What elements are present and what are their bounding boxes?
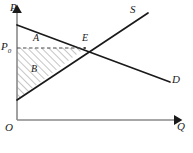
x-axis-label: Q [177, 121, 185, 132]
equilibrium-point-label: E [82, 33, 88, 43]
price-tick-letter: P [1, 40, 8, 52]
figure-caption [0, 148, 193, 153]
equilibrium-point-marker [84, 47, 86, 49]
region-a-label: A [33, 33, 39, 43]
region-b-label: B [31, 64, 37, 74]
region-b-shading [17, 48, 85, 100]
price-tick-label: P0 [1, 41, 11, 55]
price-tick-subscript: 0 [8, 47, 12, 55]
origin-label: O [5, 122, 13, 133]
diagram-canvas [0, 0, 193, 153]
supply-demand-figure: P Q O P0 S D E A B [0, 0, 193, 153]
demand-curve-label: D [172, 74, 180, 85]
y-axis-label: P [10, 2, 17, 13]
supply-curve-label: S [130, 4, 136, 15]
